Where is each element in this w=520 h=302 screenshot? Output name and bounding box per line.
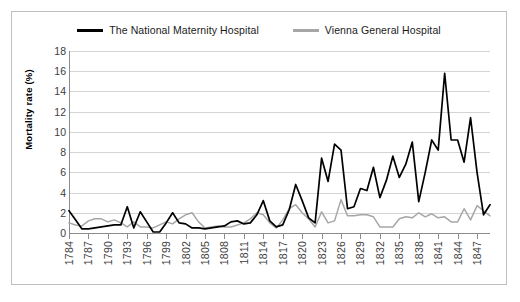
- legend-label: Vienna General Hospital: [325, 24, 441, 36]
- x-axis-tick-label: 1790: [102, 241, 114, 265]
- x-axis-tick-label: 1799: [160, 241, 172, 265]
- legend-item-national-maternity-hospital[interactable]: The National Maternity Hospital: [77, 24, 259, 36]
- x-axis-tick-mark: [419, 233, 420, 239]
- chart-figure: The National Maternity Hospital Vienna G…: [11, 11, 507, 285]
- x-axis-tick-mark: [263, 233, 264, 239]
- x-axis-tick-mark: [380, 233, 381, 239]
- y-axis-tick-labels: 024681012141618: [42, 51, 66, 233]
- x-axis-tick-label: 1811: [238, 241, 250, 264]
- x-axis-tick-label: 1832: [374, 241, 386, 265]
- x-axis-tick-label: 1835: [393, 241, 405, 265]
- x-axis-tick-label: 1793: [121, 241, 133, 265]
- x-axis-tick-mark: [166, 233, 167, 239]
- x-axis-tick-label: 1847: [471, 241, 483, 265]
- y-axis-tick-label: 2: [60, 207, 66, 219]
- y-axis-tick-label: 4: [60, 187, 66, 199]
- x-axis-tick-mark: [341, 233, 342, 239]
- y-axis-tick-label: 0: [60, 227, 66, 239]
- x-axis-tick-mark: [108, 233, 109, 239]
- x-axis-tick-label: 1814: [257, 241, 269, 265]
- x-axis-tick-label: 1784: [63, 241, 75, 265]
- plot-area: 024681012141618: [69, 51, 490, 233]
- y-axis-tick-label: 8: [60, 146, 66, 158]
- x-axis-tick-mark: [186, 233, 187, 239]
- y-axis-tick-label: 12: [54, 106, 66, 118]
- x-axis-tick-mark: [322, 233, 323, 239]
- series-line-the-national-maternity-hospital: [69, 73, 490, 232]
- x-axis-tick-mark: [360, 233, 361, 239]
- x-axis-tick-label: 1796: [141, 241, 153, 265]
- x-axis-tick-mark: [302, 233, 303, 239]
- legend-line-swatch-icon: [77, 29, 103, 32]
- chart-series-svg: [69, 51, 490, 233]
- x-axis-tick-mark: [224, 233, 225, 239]
- x-axis-tick-mark: [477, 233, 478, 239]
- x-axis-tick-label: 1844: [452, 241, 464, 265]
- y-axis-tick-label: 6: [60, 166, 66, 178]
- legend-label: The National Maternity Hospital: [109, 24, 259, 36]
- x-axis-tick-mark: [438, 233, 439, 239]
- y-axis-tick-label: 18: [54, 45, 66, 57]
- x-axis-tick-mark: [458, 233, 459, 239]
- x-axis-tick-label: 1841: [432, 241, 444, 265]
- x-axis-tick-mark: [88, 233, 89, 239]
- y-axis-tick-label: 16: [54, 65, 66, 77]
- x-axis-tick-label: 1826: [335, 241, 347, 265]
- x-axis-tick-label: 1829: [354, 241, 366, 265]
- x-axis-tick-label: 1823: [316, 241, 328, 265]
- x-axis-tick-label: 1787: [82, 241, 94, 265]
- x-axis-tick-mark: [244, 233, 245, 239]
- x-axis-tick-mark: [399, 233, 400, 239]
- x-axis-tick-mark: [127, 233, 128, 239]
- x-axis-tick-label: 1805: [199, 241, 211, 265]
- x-axis-tick-label: 1802: [180, 241, 192, 265]
- x-axis-tick-mark: [205, 233, 206, 239]
- x-axis-tick-mark: [147, 233, 148, 239]
- x-axis-tick-label: 1838: [413, 241, 425, 265]
- legend-line-swatch-icon: [293, 29, 319, 32]
- x-axis-tick-labels: 1784178717901793179617991802180518081811…: [69, 241, 490, 285]
- y-axis-tick-label: 10: [54, 126, 66, 138]
- legend-item-vienna-general-hospital[interactable]: Vienna General Hospital: [293, 24, 441, 36]
- x-axis-tick-label: 1820: [296, 241, 308, 265]
- x-axis-tick-mark: [69, 233, 70, 239]
- x-axis-tick-marks: [69, 233, 490, 241]
- y-axis-tick-label: 14: [54, 85, 66, 97]
- x-axis-tick-label: 1817: [277, 241, 289, 265]
- chart-legend: The National Maternity Hospital Vienna G…: [12, 24, 506, 36]
- y-axis-title: Mortality rate (%): [23, 50, 34, 170]
- x-axis-tick-mark: [283, 233, 284, 239]
- x-axis-tick-label: 1808: [218, 241, 230, 265]
